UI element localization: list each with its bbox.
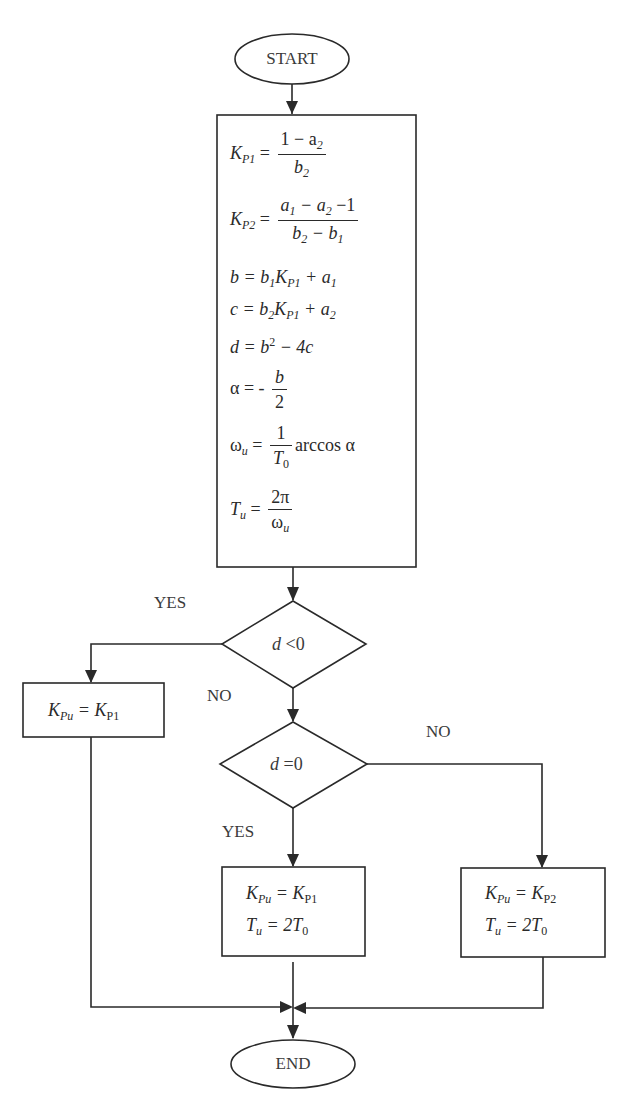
connector-right-to-merge [306,957,543,1008]
end-label: END [231,1054,355,1074]
decision1-condition: d <0 [272,634,305,655]
mid-box-equation-tu: Tu = 2T0 [246,916,308,937]
equation-omega-u: ωu = 1T0arccos α [230,424,355,470]
decision1-no-label: NO [207,686,232,706]
arrow-decision2-no [367,764,542,867]
arrowhead-icon [287,854,299,867]
arrowhead-icon [287,709,299,722]
equation-kp1: KP1 = 1 − a2b2 [230,130,329,179]
mid-process-box [222,867,365,956]
equation-b: b = b1KP1 + a1 [230,268,337,289]
decision1-yes-label: YES [154,593,186,613]
mid-box-equation-kpu: KPu = KP1 [246,884,317,905]
arrowhead-icon [293,1002,306,1014]
arrowhead-icon [287,1025,299,1039]
decision2-condition: d =0 [270,754,303,775]
arrowhead-icon [280,1001,293,1013]
equation-c: c = b2KP1 + a2 [230,300,336,321]
decision2-yes-label: YES [222,822,254,842]
equation-d: d = b2 − 4c [230,336,313,356]
equation-alpha: α = - b2 [230,368,290,411]
start-label: START [235,49,349,69]
arrow-decision1-yes [91,644,222,682]
equation-tu: Tu = 2πωu [230,488,295,534]
arrowhead-icon [536,855,548,868]
arrowhead-icon [286,101,298,114]
right-box-equation-kpu: KPu = KP2 [485,884,556,905]
left-box-equation: KPu = KP1 [48,701,119,722]
equation-kp2: KP2 = a1 − a2 −1b2 − b1 [230,196,361,245]
right-box-equation-tu: Tu = 2T0 [485,916,547,937]
decision2-no-label: NO [426,722,451,742]
arrowhead-icon [85,670,97,683]
right-process-box [461,868,605,957]
arrowhead-icon [287,587,299,601]
